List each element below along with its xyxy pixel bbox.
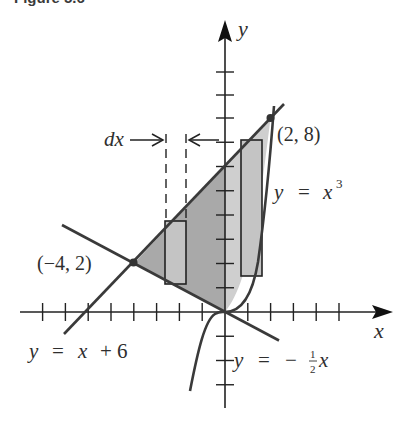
rectangle-left-strip xyxy=(165,221,186,284)
intersection-point-neg4-2 xyxy=(130,259,138,267)
y-axis-label: y xyxy=(236,16,248,41)
eq-cubic-base: x xyxy=(322,180,333,204)
eq-cubic-equals: = xyxy=(298,180,310,204)
eq-upper-equals: = xyxy=(52,339,64,363)
x-axis-label: x xyxy=(373,318,384,343)
eq-lower-equals: = xyxy=(258,348,270,372)
dx-arrow-left xyxy=(189,134,219,146)
equation-line-lower: y = − 1 2 x xyxy=(232,348,329,375)
equation-cubic: y = x 3 xyxy=(272,176,343,204)
eq-lower-frac-den: 2 xyxy=(310,363,316,375)
dx-arrow-right xyxy=(130,134,163,146)
dx-label: dx xyxy=(104,127,125,151)
equation-line-upper: y = x + 6 xyxy=(27,339,128,363)
eq-cubic-exponent: 3 xyxy=(336,176,343,191)
eq-lower-lhs: y xyxy=(232,348,244,372)
eq-lower-minus: − xyxy=(285,348,297,372)
eq-lower-frac-num: 1 xyxy=(310,348,316,360)
intersection-point-2-8 xyxy=(267,114,275,122)
eq-cubic-lhs: y xyxy=(272,180,284,204)
point-label-2-8: (2, 8) xyxy=(277,123,320,146)
eq-lower-x: x xyxy=(318,348,329,372)
eq-upper-lhs: y xyxy=(27,339,39,363)
eq-upper-plus-6: + 6 xyxy=(100,339,128,363)
area-between-curves-diagram: dx x xyxy=(0,0,408,422)
point-label-neg4-2: (−4, 2) xyxy=(37,252,92,275)
eq-upper-x: x xyxy=(77,339,88,363)
